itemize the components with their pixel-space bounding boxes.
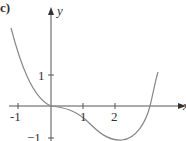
y-axis-arrow-icon bbox=[48, 7, 54, 15]
x-tick-label-neg1: -1 bbox=[10, 110, 21, 123]
y-tick-label-neg1: −1 bbox=[27, 131, 41, 141]
plot-canvas bbox=[0, 0, 186, 141]
x-tick-label-2: 2 bbox=[111, 110, 118, 123]
x-axis-label: x bbox=[183, 99, 186, 112]
figure: c) y x -1 1 2 1 −1 bbox=[0, 0, 186, 141]
panel-label: c) bbox=[0, 1, 10, 14]
x-tick-label-1: 1 bbox=[80, 110, 87, 123]
y-axis-label: y bbox=[57, 4, 63, 17]
y-tick-label-1: 1 bbox=[38, 69, 45, 82]
